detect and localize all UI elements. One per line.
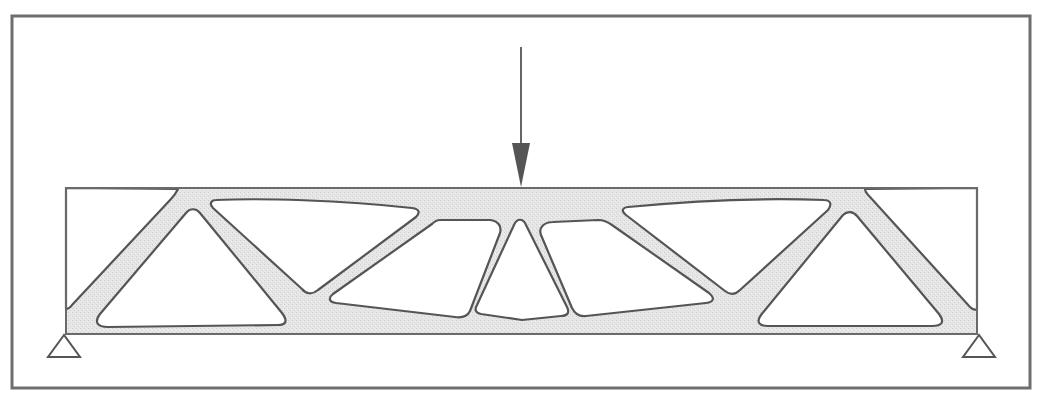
arrow-head-icon — [512, 143, 530, 187]
right-pin-support-icon — [963, 335, 995, 357]
truss-diagram — [0, 0, 1037, 393]
load-arrow — [512, 47, 530, 187]
left-pin-support-icon — [48, 335, 80, 357]
